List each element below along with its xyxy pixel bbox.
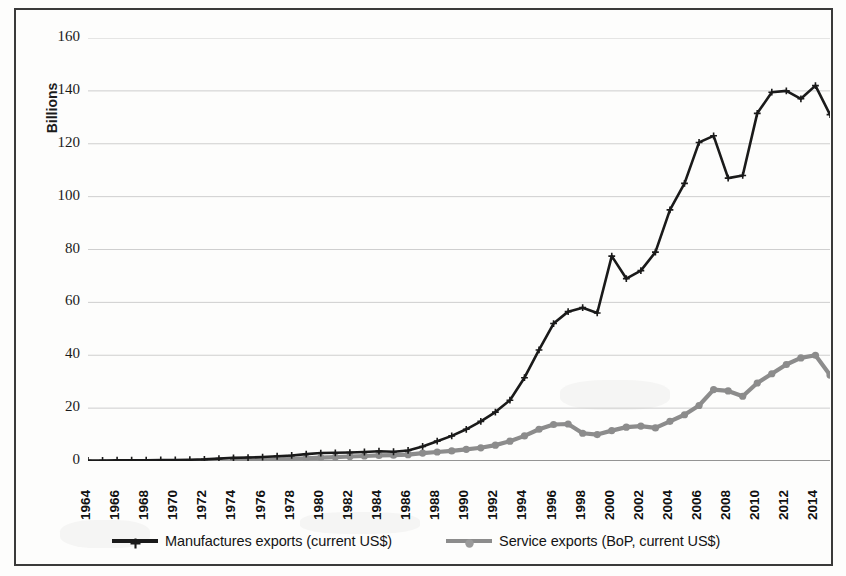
x-tick-label: 1980 (311, 490, 326, 520)
series-manufactures-exports (88, 82, 830, 461)
x-tick-label: 1984 (369, 490, 384, 520)
y-tick-label: 40 (34, 345, 80, 362)
figure-border-left (14, 8, 16, 566)
circle-marker-icon (463, 536, 476, 552)
legend-swatch-manufactures (112, 535, 158, 547)
x-tick-label: 1986 (398, 490, 413, 520)
figure-border-bottom (14, 564, 833, 566)
x-tick-label: 2000 (602, 490, 617, 520)
y-tick-label: 80 (34, 240, 80, 257)
x-tick-label: 1988 (427, 490, 442, 520)
horizontal-gridlines (88, 38, 830, 461)
x-tick-label: 1998 (573, 490, 588, 520)
x-tick-label: 1976 (253, 490, 268, 520)
legend-item-services: Service exports (BoP, current US$) (446, 533, 720, 549)
x-tick-label: 1972 (194, 490, 209, 520)
x-tick-label: 2006 (689, 490, 704, 520)
chart-figure: Billions 020406080100120140160 196419661… (0, 0, 846, 576)
x-tick-label: 1970 (165, 490, 180, 520)
x-tick-label: 1964 (78, 490, 93, 520)
figure-border-right (831, 8, 833, 566)
legend-item-manufactures: Manufactures exports (current US$) (112, 533, 392, 549)
x-tick-label: 1994 (514, 490, 529, 520)
chart-legend: Manufactures exports (current US$) Servi… (112, 528, 812, 554)
legend-label-manufactures: Manufactures exports (current US$) (165, 533, 392, 549)
x-tick-label: 2014 (805, 490, 820, 520)
y-tick-label: 160 (34, 28, 80, 45)
plot-area (88, 38, 830, 461)
x-tick-label: 1992 (485, 490, 500, 520)
x-tick-label: 2002 (631, 490, 646, 520)
plus-marker-icon (129, 536, 142, 552)
x-tick-label: 2008 (718, 490, 733, 520)
y-tick-label: 0 (34, 451, 80, 468)
x-tick-label: 1978 (282, 490, 297, 520)
x-tick-label: 1996 (544, 490, 559, 520)
x-tick-label: 1968 (136, 490, 151, 520)
x-tick-label: 1966 (107, 490, 122, 520)
y-axis-tick-labels: 020406080100120140160 (28, 0, 80, 576)
y-tick-label: 60 (34, 292, 80, 309)
x-tick-label: 1990 (456, 490, 471, 520)
y-tick-label: 120 (34, 134, 80, 151)
y-tick-label: 100 (34, 187, 80, 204)
x-tick-label: 1982 (340, 490, 355, 520)
x-tick-label: 2004 (660, 490, 675, 520)
y-tick-label: 20 (34, 398, 80, 415)
legend-swatch-services (446, 535, 492, 547)
legend-label-services: Service exports (BoP, current US$) (499, 533, 720, 549)
x-tick-label: 2010 (747, 490, 762, 520)
x-tick-label: 1974 (223, 490, 238, 520)
x-tick-label: 2012 (776, 490, 791, 520)
figure-border-top (14, 8, 833, 10)
x-axis-tick-labels: 1964196619681970197219741976197819801982… (88, 466, 830, 522)
y-tick-label: 140 (34, 81, 80, 98)
